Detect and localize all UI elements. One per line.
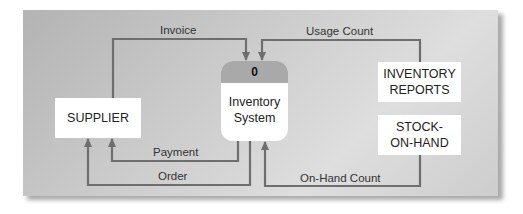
stock-on-hand-entity: STOCK- ON-HAND	[378, 115, 461, 155]
process-name-line1: Inventory	[229, 94, 280, 110]
process-number-label: 0	[251, 65, 258, 79]
process-number: 0	[221, 61, 288, 83]
inventory-reports-label-line1: INVENTORY	[383, 66, 455, 82]
stock-on-hand-label-line2: ON-HAND	[390, 135, 448, 151]
order-label: Order	[158, 170, 187, 182]
inventory-reports-entity: INVENTORY REPORTS	[378, 62, 461, 102]
stock-on-hand-label-line1: STOCK-	[396, 119, 443, 135]
usage-count-label: Usage Count	[306, 25, 373, 37]
supplier-entity: SUPPLIER	[55, 98, 141, 138]
process-name: Inventory System	[221, 83, 288, 135]
payment-label: Payment	[153, 146, 198, 158]
on-hand-count-label: On-Hand Count	[300, 172, 381, 184]
inventory-reports-label-line2: REPORTS	[389, 82, 449, 98]
process-name-line2: System	[234, 110, 276, 126]
inventory-system-process: 0 Inventory System	[221, 61, 288, 141]
invoice-label: Invoice	[160, 24, 196, 36]
supplier-label: SUPPLIER	[67, 110, 129, 126]
